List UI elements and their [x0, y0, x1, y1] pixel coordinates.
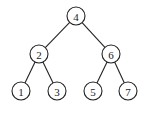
tree-node-1: 1: [12, 82, 30, 100]
node-label: 2: [36, 49, 42, 61]
tree-node-3: 3: [48, 82, 66, 100]
node-label: 6: [108, 49, 114, 61]
tree-node-4: 4: [67, 7, 85, 25]
node-label: 5: [90, 86, 96, 98]
edge-4-6: [82, 23, 105, 48]
binary-tree-diagram: 4261357: [0, 0, 149, 115]
nodes: 4261357: [12, 7, 137, 100]
node-label: 3: [54, 86, 60, 98]
node-label: 7: [125, 86, 131, 98]
node-label: 1: [18, 86, 24, 98]
edge-2-3: [43, 62, 53, 83]
edge-4-2: [45, 22, 69, 47]
edge-6-5: [97, 62, 107, 83]
edge-6-7: [115, 62, 124, 83]
tree-node-2: 2: [30, 45, 48, 63]
edge-2-1: [25, 62, 35, 83]
tree-node-7: 7: [119, 82, 137, 100]
tree-node-5: 5: [84, 82, 102, 100]
tree-node-6: 6: [102, 45, 120, 63]
node-label: 4: [73, 11, 79, 23]
